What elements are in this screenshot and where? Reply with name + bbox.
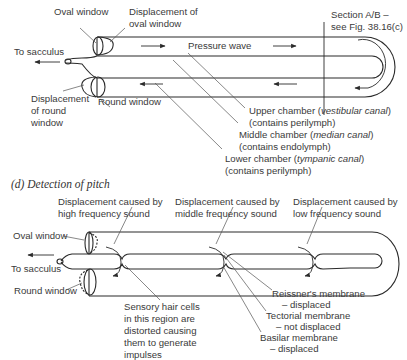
label-middle-chamber: Middle chamber (median canal) <box>239 129 373 140</box>
label-high-freq-2: high frequency sound <box>58 208 150 219</box>
label-mid-freq-1: Displacement caused by <box>175 196 280 207</box>
label-hair-cells-3: distorted causing <box>124 325 197 336</box>
label-round-window: Round window <box>98 96 161 107</box>
label-hair-cells-2: in this region are <box>124 313 195 324</box>
oval-window-shape <box>93 37 103 55</box>
label-mid-freq-2: middle frequency sound <box>175 208 277 219</box>
label-reissner-1: Reissner's membrane <box>272 288 365 299</box>
label-oval-window-bottom: Oval window <box>13 230 67 241</box>
label-hair-cells-4: them to generate <box>124 337 197 348</box>
label-to-sacculus-bottom: To sacculus <box>11 263 61 274</box>
label-displacement-round-2: of round <box>31 105 66 116</box>
label-low-freq-1: Displacement caused by <box>293 196 398 207</box>
label-basilar-2: – displaced <box>270 343 319 354</box>
label-round-window-bottom: Round window <box>14 285 77 296</box>
label-displacement-round-3: window <box>31 117 63 128</box>
label-displacement-oval-2: oval window <box>129 18 181 29</box>
round-window-shape <box>84 269 96 295</box>
label-reissner-2: – displaced <box>282 299 331 310</box>
label-upper-chamber-contents: (contains perilymph) <box>249 117 335 128</box>
label-to-sacculus: To sacculus <box>14 46 64 57</box>
label-section-1: Section A/B – <box>331 9 389 20</box>
label-tectorial-1: Tectorial membrane <box>266 310 350 321</box>
label-displacement-round-1: Displacement <box>31 93 89 104</box>
label-oval-window: Oval window <box>54 6 108 17</box>
label-low-freq-2: low frequency sound <box>293 208 381 219</box>
label-tectorial-2: – not displaced <box>276 321 341 332</box>
label-hair-cells-1: Sensory hair cells <box>124 301 200 312</box>
label-pressure-wave: Pressure wave <box>188 40 251 51</box>
label-lower-chamber-contents: (contains perilymph) <box>225 165 311 176</box>
label-upper-chamber: Upper chamber (vestibular canal) <box>249 105 391 116</box>
label-middle-chamber-contents: (contains endolymph) <box>239 141 331 152</box>
label-hair-cells-5: impulses <box>124 349 162 360</box>
uncoiled-cochlea-bottom <box>28 232 399 296</box>
label-high-freq-1: Displacement caused by <box>58 196 163 207</box>
label-section-2: see Fig. 38.16(c) <box>331 21 403 32</box>
label-basilar-1: Basilar membrane <box>260 332 338 343</box>
label-displacement-oval-1: Displacement of <box>129 6 198 17</box>
round-window-shape <box>91 77 105 97</box>
label-lower-chamber: Lower chamber (tympanic canal) <box>225 153 364 164</box>
section-heading: (d) Detection of pitch <box>11 178 110 190</box>
